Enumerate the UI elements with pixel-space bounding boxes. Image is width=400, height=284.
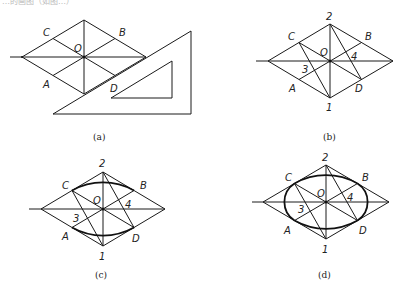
label-o: O <box>320 47 328 58</box>
panel-b: C B O A D 2 1 3 4 (b) <box>256 11 393 142</box>
label-c: C <box>43 27 50 38</box>
label-c: C <box>62 180 69 191</box>
center-point <box>102 208 105 211</box>
label-a: A <box>61 231 69 242</box>
label-4: 4 <box>351 51 357 62</box>
label-1: 1 <box>322 244 328 255</box>
label-d: D <box>355 83 363 94</box>
caption-d: (d) <box>318 270 331 280</box>
label-b: B <box>140 180 147 191</box>
label-a: A <box>42 79 50 90</box>
label-a: A <box>283 225 291 236</box>
label-4: 4 <box>347 192 353 203</box>
caption-a: (a) <box>93 132 105 142</box>
label-d: D <box>132 233 140 244</box>
label-a: A <box>288 83 296 94</box>
center-point <box>329 60 332 63</box>
label-d: D <box>359 225 367 236</box>
label-c: C <box>285 172 292 183</box>
label-o: O <box>317 188 325 199</box>
label-b: B <box>119 27 126 38</box>
cropped-header-text: …的画图（如图…） <box>2 0 74 6</box>
label-3: 3 <box>302 64 308 75</box>
label-4: 4 <box>125 199 131 210</box>
label-3: 3 <box>73 213 79 224</box>
label-2: 2 <box>322 152 328 163</box>
set-square-inner <box>111 61 172 98</box>
left-vertex <box>21 56 23 58</box>
label-3: 3 <box>298 204 304 215</box>
caption-b: (b) <box>323 132 336 142</box>
label-b: B <box>365 31 372 42</box>
caption-c: (c) <box>95 270 107 280</box>
panel-d: C B O A D 2 1 3 4 (d) <box>252 152 389 280</box>
label-1: 1 <box>326 102 332 113</box>
center-point <box>325 201 328 204</box>
label-2: 2 <box>326 11 332 22</box>
label-b: B <box>362 172 369 183</box>
label-d: D <box>110 83 118 94</box>
panel-c: C B O A D 2 1 3 4 (c) <box>29 158 165 280</box>
panel-a: C B O A D (a) <box>10 20 191 142</box>
label-1: 1 <box>99 251 105 262</box>
label-c: C <box>288 31 295 42</box>
center-point <box>83 56 86 59</box>
isometric-ellipse-construction-diagram: …的画图（如图…） C B O A D (a) C B O A <box>0 0 400 284</box>
label-o: O <box>74 43 82 54</box>
label-2: 2 <box>99 158 105 169</box>
label-o: O <box>93 195 101 206</box>
